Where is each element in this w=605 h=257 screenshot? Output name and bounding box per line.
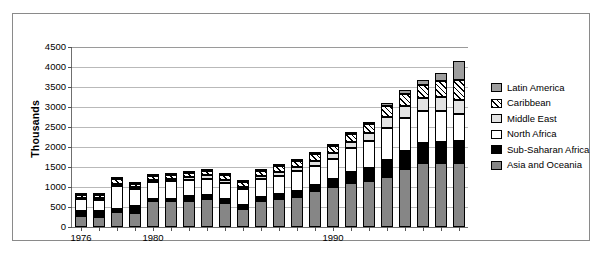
legend-label: Asia and Oceania	[507, 160, 582, 170]
bar-segment-ssa	[417, 143, 428, 163]
bar-segment-asia	[381, 177, 392, 227]
bar-segment-latin	[129, 182, 140, 184]
bar-segment-carib	[453, 80, 464, 100]
bar-segment-asia	[327, 187, 338, 227]
bar-segment-asia	[93, 217, 104, 227]
bar-segment-asia	[309, 191, 320, 227]
bar-1983[interactable]	[201, 47, 212, 227]
bar-1991[interactable]	[345, 47, 356, 227]
bar-segment-me	[435, 97, 446, 111]
bar-1977[interactable]	[93, 47, 104, 227]
bar-1995[interactable]	[417, 47, 428, 227]
legend-item-asia[interactable]: Asia and Oceania	[491, 158, 589, 174]
bar-segment-asia	[183, 201, 194, 227]
x-axis-tick	[99, 227, 100, 231]
bar-segment-ssa	[309, 185, 320, 191]
bar-segment-latin	[345, 132, 356, 134]
bar-segment-carib	[399, 94, 410, 106]
bar-segment-latin	[435, 73, 446, 81]
bar-1994[interactable]	[399, 47, 410, 227]
bar-segment-asia	[363, 181, 374, 227]
bar-1986[interactable]	[255, 47, 266, 227]
bar-1997[interactable]	[453, 47, 464, 227]
legend-label: Sub-Saharan Africa	[507, 145, 589, 155]
bar-1979[interactable]	[129, 47, 140, 227]
bar-1976[interactable]	[75, 47, 86, 227]
bar-segment-asia	[273, 199, 284, 227]
legend-item-na[interactable]: North Africa	[491, 127, 589, 143]
legend-swatch-icon	[491, 161, 502, 170]
bar-segment-me	[165, 179, 176, 181]
bar-segment-na	[381, 128, 392, 160]
bar-1985[interactable]	[237, 47, 248, 227]
x-axis-tick	[441, 227, 442, 231]
bar-segment-ssa	[435, 142, 446, 163]
bar-segment-ssa	[273, 194, 284, 199]
bar-segment-carib	[327, 146, 338, 153]
y-axis-tick-label: 3500	[32, 82, 66, 92]
bar-segment-me	[363, 133, 374, 140]
y-axis-tick-label: 1500	[32, 162, 66, 172]
bar-segment-carib	[417, 85, 428, 98]
x-axis-tick	[333, 227, 334, 231]
legend-item-carib[interactable]: Caribbean	[491, 96, 589, 112]
bar-segment-asia	[165, 201, 176, 227]
bar-1996[interactable]	[435, 47, 446, 227]
y-axis-tick-label: 2000	[32, 142, 66, 152]
bar-segment-ssa	[219, 199, 230, 203]
x-axis-tick	[369, 227, 370, 231]
x-axis-tick	[81, 227, 82, 231]
bar-1984[interactable]	[219, 47, 230, 227]
y-axis-tick-label: 1000	[32, 182, 66, 192]
bar-segment-ssa	[327, 179, 338, 187]
bar-segment-carib	[363, 124, 374, 133]
bar-segment-carib	[183, 173, 194, 177]
bar-segment-latin	[363, 122, 374, 124]
bar-segment-latin	[201, 169, 212, 171]
bar-segment-carib	[219, 175, 230, 180]
x-axis-tick	[189, 227, 190, 231]
bar-1993[interactable]	[381, 47, 392, 227]
bar-segment-latin	[75, 193, 86, 195]
bar-1982[interactable]	[183, 47, 194, 227]
x-axis-tick	[135, 227, 136, 231]
bar-segment-asia	[219, 203, 230, 227]
bar-1978[interactable]	[111, 47, 122, 227]
bar-segment-carib	[345, 134, 356, 142]
legend-item-ssa[interactable]: Sub-Saharan Africa	[491, 142, 589, 158]
bar-1980[interactable]	[147, 47, 158, 227]
bar-segment-na	[363, 141, 374, 168]
y-axis-tick-label: 4500	[32, 42, 66, 52]
bar-segment-ssa	[93, 211, 104, 217]
bar-segment-me	[237, 187, 248, 190]
x-axis-tick	[351, 227, 352, 231]
bar-segment-me	[453, 100, 464, 114]
x-axis-tick-label: 1976	[70, 233, 91, 243]
x-axis-tick	[279, 227, 280, 231]
bar-1989[interactable]	[309, 47, 320, 227]
legend-item-me[interactable]: Middle East	[491, 111, 589, 127]
bar-segment-asia	[237, 209, 248, 227]
bar-segment-na	[453, 114, 464, 140]
bar-segment-carib	[129, 184, 140, 187]
bar-segment-carib	[111, 179, 122, 184]
bar-1990[interactable]	[327, 47, 338, 227]
bar-1988[interactable]	[291, 47, 302, 227]
y-axis-tick-label: 3000	[32, 102, 66, 112]
bar-segment-na	[111, 186, 122, 209]
x-axis-tick	[297, 227, 298, 231]
bar-segment-latin	[453, 61, 464, 80]
bar-segment-na	[435, 111, 446, 142]
x-axis-tick	[153, 227, 154, 231]
x-axis-tick	[423, 227, 424, 231]
bar-1992[interactable]	[363, 47, 374, 227]
bar-segment-latin	[381, 103, 392, 105]
x-axis-tick	[243, 227, 244, 231]
legend-swatch-icon	[491, 145, 502, 154]
bar-1981[interactable]	[165, 47, 176, 227]
x-axis-tick-label: 1980	[142, 233, 163, 243]
legend-label: Caribbean	[507, 98, 551, 108]
legend-item-latin[interactable]: Latin America	[491, 80, 589, 96]
bar-segment-ssa	[363, 168, 374, 181]
bar-1987[interactable]	[273, 47, 284, 227]
